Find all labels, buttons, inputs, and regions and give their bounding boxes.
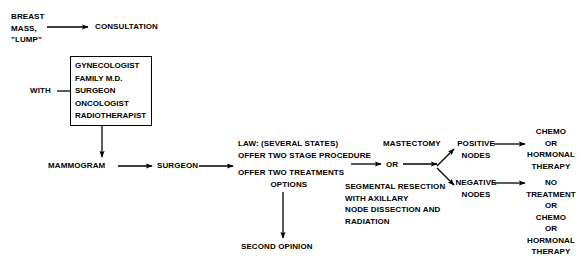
- node-chemo-outcome: CHEMO OR HORMONAL THERAPY: [522, 126, 580, 172]
- node-law-two-stage: LAW: (SEVERAL STATES) OFFER TWO STAGE PR…: [238, 138, 371, 161]
- node-consultation: CONSULTATION: [95, 21, 158, 33]
- node-negative-nodes: NEGATIVE NODES: [455, 177, 497, 200]
- node-offer-two-treatments: OFFER TWO TREATMENTS OPTIONS: [238, 167, 344, 190]
- specialist-box: GYNECOLOGIST FAMILY M.D. SURGEON ONCOLOG…: [70, 56, 152, 126]
- node-with-label: WITH: [30, 85, 51, 97]
- node-segmental-resection: SEGMENTAL RESECTION WITH AXILLARY NODE D…: [345, 181, 445, 227]
- flowchart-diagram: BREAST MASS, "LUMP" CONSULTATION WITH GY…: [0, 0, 585, 276]
- node-mastectomy: MASTECTOMY: [383, 138, 441, 150]
- node-positive-nodes: POSITIVE NODES: [455, 138, 497, 161]
- node-surgeon: SURGEON: [157, 160, 198, 172]
- node-breast-mass: BREAST MASS, "LUMP": [11, 11, 45, 46]
- specialist-list: GYNECOLOGIST FAMILY M.D. SURGEON ONCOLOG…: [75, 60, 146, 123]
- node-second-opinion: SECOND OPINION: [241, 241, 313, 253]
- edge-branch-to-positive-nodes: [437, 149, 454, 166]
- node-or-label: OR: [386, 159, 398, 171]
- node-no-treatment-outcome: NO TREATMENT OR CHEMO OR HORMONAL THERAP…: [522, 177, 580, 258]
- node-mammogram: MAMMOGRAM: [48, 160, 105, 172]
